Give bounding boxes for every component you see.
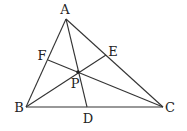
point-p-dot — [76, 70, 80, 74]
geometry-diagram: A B C D E F P — [0, 0, 187, 131]
label-d: D — [83, 111, 93, 126]
side-ca — [66, 19, 163, 107]
label-a: A — [59, 2, 70, 17]
label-b: B — [14, 100, 24, 115]
label-e: E — [108, 44, 118, 59]
label-f: F — [37, 48, 46, 63]
cevian-cf — [48, 60, 163, 107]
cevian-ad — [66, 19, 87, 107]
label-c: C — [165, 100, 175, 115]
label-p: P — [71, 76, 80, 91]
